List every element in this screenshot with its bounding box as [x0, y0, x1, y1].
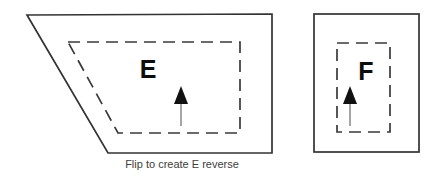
diagram-canvas: E F Flip to create E reverse [0, 0, 445, 180]
right-panel-letter: F [358, 57, 373, 85]
diagram-caption: Flip to create E reverse [125, 158, 239, 170]
technical-illustration: E F Flip to create E reverse [0, 0, 445, 180]
left-panel-letter: E [140, 55, 157, 83]
